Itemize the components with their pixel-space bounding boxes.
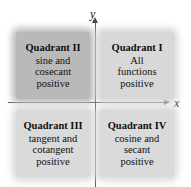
quadrant-1-box: Quadrant I All functions positive <box>100 32 174 99</box>
quadrant-1-body: All functions positive <box>117 55 156 90</box>
y-axis-label: y <box>90 8 95 20</box>
y-axis-line <box>95 22 96 187</box>
arrow-right-icon <box>164 99 170 105</box>
quadrant-1-title: Quadrant I <box>111 42 162 54</box>
x-axis-line <box>8 102 165 103</box>
quadrant-2-body: sine and cosecant positive <box>35 55 71 90</box>
x-axis-label: x <box>174 97 179 109</box>
quadrant-3-body: tangent and cotangent positive <box>29 133 78 168</box>
quadrant-sign-diagram: x y Quadrant II sine and cosecant positi… <box>0 0 191 187</box>
quadrant-3-title: Quadrant III <box>23 120 82 132</box>
quadrant-4-body: cosine and secant positive <box>115 133 160 168</box>
quadrant-4-box: Quadrant IV cosine and secant positive <box>100 110 174 177</box>
quadrant-2-box: Quadrant II sine and cosecant positive <box>16 32 90 99</box>
quadrant-2-title: Quadrant II <box>25 42 80 54</box>
quadrant-3-box: Quadrant III tangent and cotangent posit… <box>16 110 90 177</box>
quadrant-4-title: Quadrant IV <box>108 120 167 132</box>
